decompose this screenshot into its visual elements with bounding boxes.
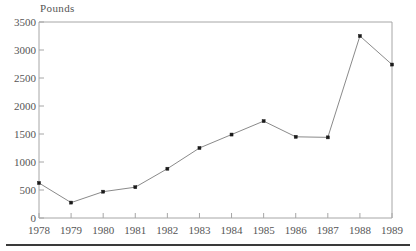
x-axis-tick-label: 1987	[317, 224, 339, 236]
bottom-divider-rule	[6, 244, 410, 246]
x-axis-tick-label: 1983	[188, 224, 210, 236]
x-axis-tick-label: 1988	[349, 224, 371, 236]
x-axis-tick-label: 1989	[381, 224, 403, 236]
x-axis-tick-label: 1984	[221, 224, 243, 236]
x-axis-tick-label: 1986	[285, 224, 307, 236]
x-axis-tick-label: 1985	[253, 224, 275, 236]
x-axis-tick-label: 1982	[156, 224, 178, 236]
x-axis-tick-label: 1979	[60, 224, 82, 236]
x-axis-tick-label: 1980	[92, 224, 114, 236]
x-axis-tick-label: 1981	[124, 224, 146, 236]
x-axis-tick-labels: 1978197919801981198219831984198519861987…	[0, 0, 416, 251]
x-axis-tick-label: 1978	[28, 224, 50, 236]
chart-figure: Pounds 0500100015002000250030003500 1978…	[0, 0, 416, 251]
